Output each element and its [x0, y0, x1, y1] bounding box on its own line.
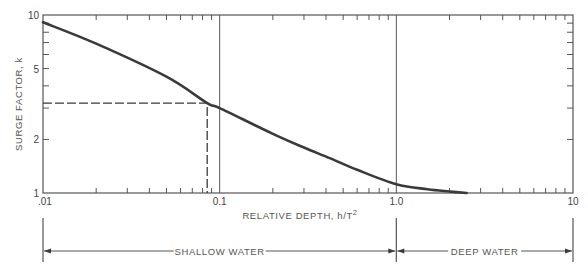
x-tick-label: .01	[38, 196, 52, 207]
x-tick-label: 1.0	[389, 196, 403, 207]
arrow-left-icon	[397, 249, 404, 254]
arrow-left-icon	[44, 249, 51, 254]
surge-factor-curve	[43, 22, 467, 193]
dashed-guide-line	[43, 103, 207, 193]
data-curve	[43, 22, 467, 193]
x-tick-label: 0.1	[213, 196, 227, 207]
y-tick-label: 2	[33, 134, 39, 145]
y-tick-labels: 12510	[28, 10, 40, 199]
y-tick-label: 5	[33, 64, 39, 75]
shallow-water-label: SHALLOW WATER	[175, 246, 265, 257]
x-tick-label: 10	[567, 196, 579, 207]
plot-frame	[43, 15, 573, 193]
plot-border	[43, 15, 573, 193]
surge-factor-chart: .010.11.010 12510 SURGE FACTOR, k RELATI…	[0, 0, 588, 268]
arrow-right-icon	[388, 249, 395, 254]
x-axis-title: RELATIVE DEPTH, h/T2	[242, 208, 357, 221]
water-regions: SHALLOW WATERDEEP WATER	[43, 218, 573, 262]
deep-water-label: DEEP WATER	[451, 246, 519, 257]
dashed-guide	[43, 103, 207, 193]
x-tick-labels: .010.11.010	[38, 196, 579, 207]
y-axis-title: SURGE FACTOR, k	[13, 57, 24, 151]
x-axis-title-superscript: 2	[353, 208, 358, 217]
axis-ticks	[43, 15, 573, 193]
y-tick-label: 1	[33, 188, 39, 199]
reference-lines	[220, 15, 397, 193]
arrow-right-icon	[565, 249, 572, 254]
y-tick-label: 10	[28, 10, 40, 21]
